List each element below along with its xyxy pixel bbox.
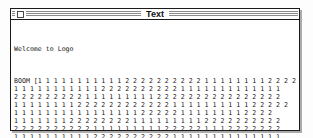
- terminal-output[interactable]: Welcome to Logo BOOM [1 1 1 1 1 1 1 1 1 …: [11, 20, 299, 138]
- output-line: 1 1 1 1 1 1 1 1 1 1 2 2 2 2 2 2 2 2 2 2 …: [14, 133, 299, 138]
- output-line: BOOM [1 1 1 1 1 1 1 1 1 1 1 2 2 2 2 2 2 …: [14, 77, 299, 85]
- close-box-chip: [15, 9, 26, 19]
- title-chip: Text: [141, 9, 169, 19]
- output-line: 2 2 2 2 2 2 2 2 2 1 1 1 1 1 1 1 1 1 2 2 …: [14, 93, 299, 101]
- window-titlebar[interactable]: Text: [11, 9, 299, 20]
- output-line: 1 1 1 1 1 1 1 1 1 1 1 1 1 1 1 1 2 2 2 2 …: [14, 109, 299, 117]
- welcome-line: Welcome to Logo: [14, 45, 299, 53]
- output-line: 1 1 1 1 1 1 1 1 1 1 1 2 2 2 2 2 2 2 2 2 …: [14, 85, 299, 93]
- window-title: Text: [146, 10, 164, 19]
- output-line: 2 2 2 2 2 2 2 2 2 2 1 1 1 1 1 1 1 1 1 2 …: [14, 125, 299, 133]
- output-line: 1 1 1 1 1 1 1 1 2 2 2 2 2 2 2 2 2 2 2 2 …: [14, 101, 299, 109]
- output-line: 1 1 1 1 1 1 1 2 2 2 2 2 2 2 2 1 1 1 1 1 …: [14, 117, 299, 125]
- text-window: Text Welcome to Logo BOOM [1 1 1 1 1 1 1…: [10, 8, 300, 131]
- close-box-icon[interactable]: [17, 11, 24, 18]
- desktop: Text Welcome to Logo BOOM [1 1 1 1 1 1 1…: [0, 0, 313, 138]
- number-grid: BOOM [1 1 1 1 1 1 1 1 1 1 1 2 2 2 2 2 2 …: [14, 77, 299, 138]
